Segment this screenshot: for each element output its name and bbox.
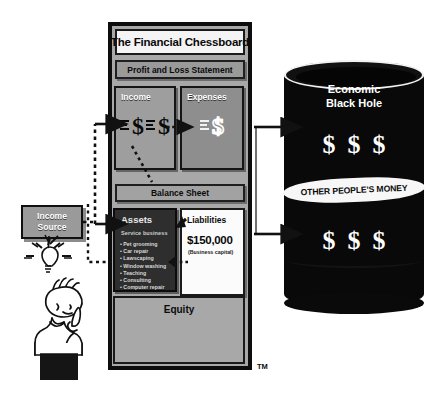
page-title: The Financial Chessboard — [111, 36, 249, 48]
barrel-title-line-2: Black Hole — [326, 96, 382, 110]
profit-and-loss-label: Profit and Loss Statement — [127, 65, 232, 75]
liabilities-panel-label: Liabilities — [187, 215, 226, 225]
other-peoples-money-label: OTHER PEOPLE'S MONEY — [300, 183, 407, 198]
dollar-sign-icon: $ — [348, 132, 361, 158]
chessboard-title-plate: The Financial Chessboard — [115, 29, 245, 55]
dollar-sign-icon: $ — [348, 228, 361, 254]
dollar-sign-icon: $ — [323, 132, 336, 158]
economic-black-hole-barrel: Economic Black Hole $ $ $ OTHER PEOPLE'S… — [284, 60, 424, 310]
liabilities-amount: $150,000 — [187, 234, 233, 246]
dollar-sign-icon: $ — [373, 228, 386, 254]
list-item: Window washing — [120, 263, 166, 270]
barrel-title: Economic Black Hole — [284, 66, 424, 126]
list-item: Car repair — [120, 248, 166, 255]
balance-sheet-bar: Balance Sheet — [115, 184, 245, 202]
assets-panel-label: Assets — [121, 214, 152, 225]
list-item: Lawscaping — [120, 255, 166, 262]
income-source-box: Income Source — [21, 205, 83, 239]
thinking-person-icon — [35, 278, 82, 355]
expenses-panel: Expenses $ — [180, 86, 244, 170]
list-item: Computer repair — [120, 284, 166, 291]
income-panel-label: Income — [121, 92, 151, 102]
dollar-sign-icon: $ — [158, 114, 170, 138]
list-item: Consulting — [120, 277, 166, 284]
barrel-bottom — [284, 292, 424, 314]
income-source-line-2: Source — [38, 222, 67, 233]
motion-lines-icon — [200, 118, 209, 134]
assets-panel: Assets Service business Pet grooming Car… — [113, 208, 177, 292]
expenses-panel-label: Expenses — [187, 92, 227, 102]
income-source-line-1: Income — [37, 211, 67, 222]
barrel-money-row-top: $ $ $ — [284, 132, 424, 158]
dollar-sign-icon: $ — [323, 228, 336, 254]
list-item: Teaching — [120, 270, 166, 277]
lightbulb-rays-icon — [26, 243, 71, 256]
assets-subtitle: Service business — [121, 230, 168, 236]
equity-panel-label: Equity — [115, 304, 243, 315]
lightbulb-icon — [24, 235, 72, 272]
barrel-title-line-1: Economic — [328, 82, 381, 96]
dollar-sign-icon: $ — [373, 132, 386, 158]
income-panel: Income $ $ — [114, 86, 176, 170]
expenses-money-row: $ — [182, 114, 242, 138]
balance-sheet-label: Balance Sheet — [151, 188, 209, 198]
motion-lines-icon — [146, 118, 155, 134]
diagram-canvas: The Financial Chessboard Profit and Loss… — [0, 0, 433, 400]
liabilities-panel: Liabilities $150,000 (Business capital) — [180, 208, 245, 296]
thinking-person-trousers — [40, 354, 78, 380]
profit-and-loss-bar: Profit and Loss Statement — [115, 60, 245, 79]
dotted-arrow-icon — [83, 124, 108, 224]
barrel-money-row-bottom: $ $ $ — [284, 228, 424, 254]
liabilities-note: (Business capital) — [188, 249, 233, 255]
list-item: Pet grooming — [120, 241, 166, 248]
income-money-row: $ $ — [116, 114, 174, 138]
trademark-mark: TM — [257, 362, 268, 371]
motion-lines-icon — [120, 118, 129, 134]
assets-list: Pet grooming Car repair Lawscaping Windo… — [120, 241, 166, 291]
dollar-sign-outline-icon: $ — [212, 114, 224, 138]
equity-panel: Equity — [113, 296, 245, 364]
dollar-sign-icon: $ — [132, 114, 144, 138]
